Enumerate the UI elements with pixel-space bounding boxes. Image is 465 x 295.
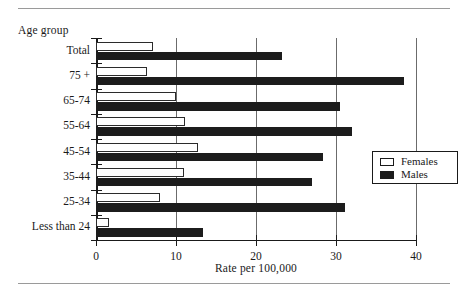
legend-item-males: Males [380,168,428,181]
y-tick-6 [91,190,102,191]
legend-swatch-females-icon [380,158,394,166]
y-axis-title: Age group [18,24,69,36]
x-tick-label-0: 0 [74,250,118,262]
x-tick-label-20: 20 [234,250,278,262]
y-tick-2 [91,89,102,90]
y-tick-0 [91,38,102,39]
x-tick-label-30: 30 [314,250,358,262]
x-tick-30 [336,235,337,246]
bar-males-5 [96,178,312,187]
bar-females-6 [96,193,160,202]
category-label: 35-44 [0,171,90,183]
category-label: 55-64 [0,120,90,132]
y-tick-3 [91,114,102,115]
bar-females-2 [96,92,176,101]
y-tick-5 [91,164,102,165]
x-tick-20 [256,235,257,246]
x-tick-40 [416,235,417,246]
bar-males-1 [96,77,404,86]
category-label: Total [0,45,90,57]
category-label: Less than 24 [0,221,90,233]
bar-males-4 [96,153,323,162]
bar-males-7 [96,228,203,237]
bar-females-3 [96,117,185,126]
bar-males-2 [96,102,340,111]
y-tick-7 [91,215,102,216]
x-tick-label-40: 40 [394,250,438,262]
figure-bar-chart: Age group 010203040Total75 +65-7455-6445… [0,0,465,295]
legend-label-females: Females [401,156,438,167]
category-label: 25-34 [0,196,90,208]
bar-females-5 [96,168,184,177]
x-tick-label-10: 10 [154,250,198,262]
plot-area: 010203040Total75 +65-7455-6445-5435-4425… [96,38,416,240]
bar-males-0 [96,52,282,61]
bar-females-1 [96,67,147,76]
legend: Females Males [372,151,458,184]
category-label: 75 + [0,70,90,82]
legend-item-females: Females [380,155,438,168]
x-axis-title: Rate per 100,000 [96,262,416,274]
gridline-40 [416,38,417,240]
page-rule-bottom [18,283,450,284]
bar-males-6 [96,203,345,212]
legend-swatch-males-icon [380,171,394,179]
page-rule-top [18,8,450,9]
category-label: 65-74 [0,95,90,107]
y-tick-1 [91,63,102,64]
category-label: 45-54 [0,146,90,158]
legend-label-males: Males [401,169,428,180]
bar-females-0 [96,42,153,51]
bar-females-7 [96,218,109,227]
y-tick-end [91,240,102,241]
bar-females-4 [96,143,198,152]
y-tick-4 [91,139,102,140]
bar-males-3 [96,127,352,136]
